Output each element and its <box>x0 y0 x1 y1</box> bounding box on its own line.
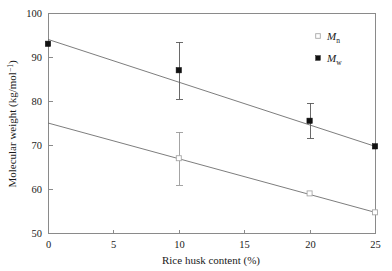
data-point-Mn <box>307 191 312 196</box>
molecular-weight-scatter-chart: 5060708090100 0510152025 Molecular weigh… <box>0 0 392 271</box>
legend-marker-open-square <box>316 34 321 39</box>
legend-marker-filled-square <box>316 56 321 61</box>
data-point-Mn <box>373 210 378 215</box>
y-tick-label: 50 <box>32 228 43 239</box>
x-tick-label: 5 <box>111 239 116 250</box>
y-tick-label: 80 <box>32 96 43 107</box>
x-axis-title: Rice husk content (%) <box>162 254 260 267</box>
data-point-Mw <box>307 118 312 123</box>
y-tick-label: 60 <box>32 184 43 195</box>
y-axis-title: Molecular weight (kg/mol−1) <box>6 60 20 187</box>
svg-text:Molecular weight (kg/mol−1): Molecular weight (kg/mol−1) <box>6 60 20 187</box>
data-point-Mw <box>45 41 50 46</box>
y-tick-label: 100 <box>26 8 42 19</box>
x-tick-label: 0 <box>46 239 51 250</box>
data-point-Mn <box>176 156 181 161</box>
x-tick-label: 25 <box>370 239 381 250</box>
x-tick-label: 15 <box>239 239 250 250</box>
data-point-Mw <box>372 144 377 149</box>
y-tick-label: 70 <box>32 140 43 151</box>
data-point-Mw <box>176 68 181 73</box>
x-tick-label: 10 <box>174 239 185 250</box>
x-tick-label: 20 <box>305 239 316 250</box>
chart-figure: 5060708090100 0510152025 Molecular weigh… <box>0 0 392 271</box>
y-tick-label: 90 <box>32 52 43 63</box>
